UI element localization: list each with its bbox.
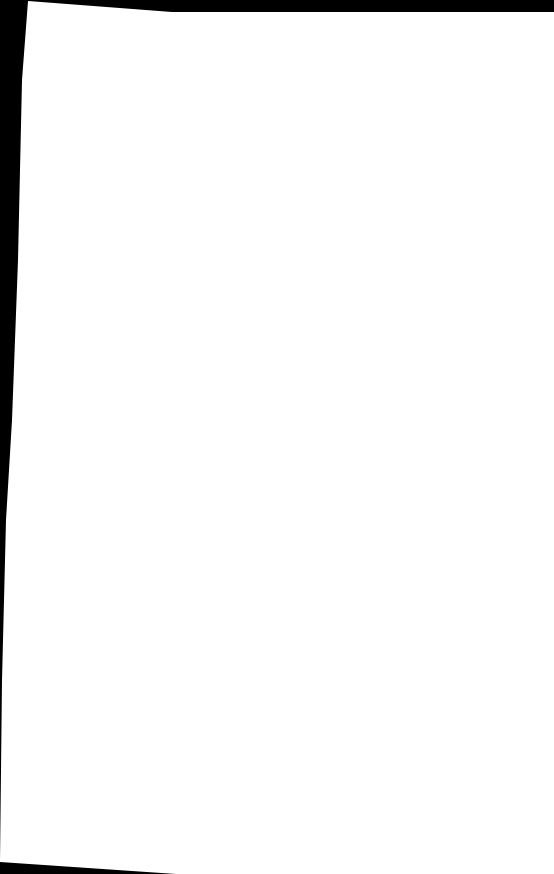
blank-scanned-page [0,0,554,874]
